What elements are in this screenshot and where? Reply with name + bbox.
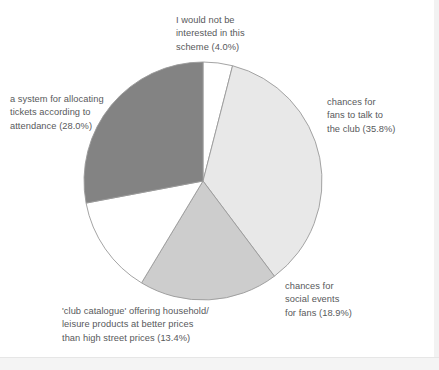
page-edge-right — [434, 0, 439, 370]
pie-label-talk-to-club: chances for fans to talk to the club (35… — [327, 96, 437, 136]
pie-label-allocating-tickets: a system for allocating tickets accordin… — [10, 93, 140, 133]
pie-label-social-events: chances for social events for fans (18.9… — [285, 280, 405, 320]
page-edge-bottom — [0, 358, 439, 370]
pie-label-club-catalogue: 'club catalogue' offering household/ lei… — [62, 305, 272, 345]
pie-chart-figure: I would not be interested in this scheme… — [0, 0, 439, 370]
pie-label-not-interested: I would not be interested in this scheme… — [176, 14, 306, 54]
